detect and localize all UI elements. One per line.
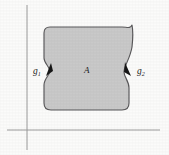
label-g1: g1 [33, 67, 41, 77]
label-g2-subscript: 2 [142, 71, 145, 77]
label-g2: g2 [137, 67, 145, 77]
label-g1-subscript: 1 [38, 71, 41, 77]
figure-container: g1 g2 A [0, 0, 169, 155]
label-region-A: A [84, 66, 90, 75]
wedge-marker-g2 [124, 62, 131, 76]
figure-canvas [0, 0, 169, 155]
